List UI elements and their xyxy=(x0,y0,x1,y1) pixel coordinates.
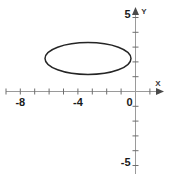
x-axis-label: X xyxy=(155,79,161,88)
x-axis-arrow-icon xyxy=(156,88,164,95)
x-tick-label-neg4: -4 xyxy=(73,96,84,108)
x-tick-label-neg8: -8 xyxy=(15,96,25,108)
y-tick-label-neg5: -5 xyxy=(121,156,131,168)
x-tick-label-zero: 0 xyxy=(126,96,132,108)
y-tick-label-pos5: 5 xyxy=(124,8,130,20)
coordinate-plot: -8 -4 0 5 -5 X Y xyxy=(0,0,175,180)
y-axis-label: Y xyxy=(141,7,147,16)
ellipse-curve xyxy=(45,43,131,75)
y-axis-arrow-icon xyxy=(132,7,139,15)
ellipse-graph-figure: -8 -4 0 5 -5 X Y xyxy=(0,0,175,180)
